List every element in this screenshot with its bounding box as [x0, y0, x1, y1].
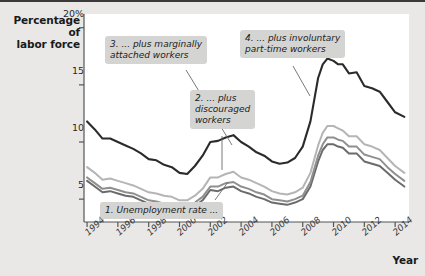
- annotation-discouraged-workers: 2. ... plus discouraged workers: [190, 90, 255, 129]
- y-tick-label: 15: [50, 65, 84, 76]
- y-tick-label: 10: [50, 122, 84, 133]
- y-tick-labels: 20%15105: [44, 0, 84, 208]
- annotation-unemployment-rate: 1. Unemployment rate ...: [100, 202, 223, 219]
- series-line: [87, 126, 404, 200]
- annotation-involuntary-part-time: 4. ... plus involuntary part-time worker…: [240, 30, 345, 58]
- x-axis-title: Year: [374, 254, 418, 266]
- annotation-marginally-attached: 3. ... plus marginally attached workers: [105, 36, 207, 64]
- y-tick-label: 20%: [50, 8, 84, 19]
- figure-root: Percentage of labor force Year 20%15105 …: [0, 0, 425, 276]
- series-line: [87, 144, 404, 210]
- y-tick-label: 5: [50, 179, 84, 190]
